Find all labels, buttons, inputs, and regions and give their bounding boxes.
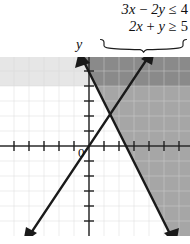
inequality-1-rhs: 4 xyxy=(181,1,188,17)
inequality-label-1: 3x − 2y ≤ 4 xyxy=(96,1,188,18)
inequality-1-operator: − xyxy=(136,1,152,17)
coordinate-plane xyxy=(0,57,190,236)
inequality-2-lhs-a: 2x xyxy=(129,18,143,34)
inequality-label-2: 2x + y ≥ 5 xyxy=(96,18,188,35)
inequality-1-relation: ≤ xyxy=(165,1,181,17)
inequality-1-lhs-a: 3x xyxy=(122,1,136,17)
horizontal-curly-brace-icon xyxy=(99,38,187,53)
inequality-2-rhs: 5 xyxy=(181,18,188,34)
inequality-2-relation: ≥ xyxy=(165,18,181,34)
y-axis-label: y xyxy=(76,38,82,52)
inequality-graph-figure: 3x − 2y ≤ 4 2x + y ≥ 5 y xyxy=(0,0,190,244)
inequality-system-labels: 3x − 2y ≤ 4 2x + y ≥ 5 xyxy=(96,1,188,35)
inequality-1-lhs-b: 2y xyxy=(151,1,165,17)
origin-label: 0 xyxy=(78,146,85,159)
inequality-2-operator: + xyxy=(143,18,159,34)
